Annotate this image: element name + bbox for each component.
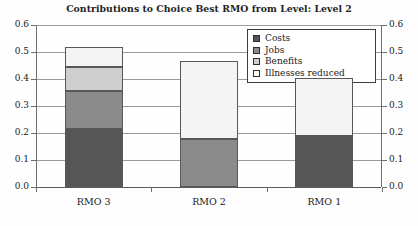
bar-segment-illnesses-reduced[interactable] <box>295 78 353 136</box>
y-axis-tick-left <box>31 106 36 107</box>
x-axis-tick <box>36 187 37 192</box>
bar-segment-jobs[interactable] <box>180 139 238 187</box>
legend-swatch-icon <box>253 70 260 77</box>
y-axis-label-left: 0.6 <box>3 20 29 29</box>
x-axis-label: RMO 1 <box>284 196 364 207</box>
y-axis-tick-right <box>382 25 387 26</box>
gridline <box>37 187 381 188</box>
y-axis-tick-left <box>31 133 36 134</box>
y-axis-tick-left <box>31 25 36 26</box>
bar-segment-benefits[interactable] <box>65 67 123 91</box>
legend-label: Costs <box>265 34 290 43</box>
y-axis-label-right: 0.4 <box>389 74 415 83</box>
x-axis-tick <box>151 187 152 192</box>
bar-segment-costs[interactable] <box>295 136 353 187</box>
y-axis-label-right: 0.6 <box>389 20 415 29</box>
y-axis-tick-right <box>382 52 387 53</box>
y-axis-tick-right <box>382 133 387 134</box>
y-axis-label-left: 0.5 <box>3 47 29 56</box>
bar-rmo-1[interactable] <box>295 25 353 187</box>
bar-segment-costs[interactable] <box>65 129 123 187</box>
x-axis-label: RMO 3 <box>54 196 134 207</box>
legend-label: Jobs <box>265 46 284 55</box>
y-axis-label-left: 0.4 <box>3 74 29 83</box>
y-axis-label-left: 0.1 <box>3 155 29 164</box>
y-axis-tick-right <box>382 79 387 80</box>
legend-swatch-icon <box>253 58 260 65</box>
y-axis-label-right: 0.2 <box>389 128 415 137</box>
x-axis-label: RMO 2 <box>169 196 249 207</box>
bar-segment-illnesses-reduced[interactable] <box>65 47 123 66</box>
bar-segment-jobs[interactable] <box>65 91 123 129</box>
legend-swatch-icon <box>253 47 260 54</box>
x-axis-tick <box>267 187 268 192</box>
y-axis-label-right: 0.1 <box>389 155 415 164</box>
bar-rmo-2[interactable] <box>180 25 238 187</box>
y-axis-tick-right <box>382 106 387 107</box>
y-axis-tick-left <box>31 52 36 53</box>
y-axis-label-left: 0.2 <box>3 128 29 137</box>
y-axis-label-right: 0.0 <box>389 182 415 191</box>
y-axis-label-right: 0.3 <box>389 101 415 110</box>
chart-title: Contributions to Choice Best RMO from Le… <box>0 3 418 14</box>
y-axis-label-right: 0.5 <box>389 47 415 56</box>
legend-swatch-icon <box>253 35 260 42</box>
y-axis-label-left: 0.0 <box>3 182 29 191</box>
y-axis-label-left: 0.3 <box>3 101 29 110</box>
y-axis-tick-left <box>31 79 36 80</box>
x-axis-tick <box>382 187 383 192</box>
stacked-bar-chart: Contributions to Choice Best RMO from Le… <box>0 0 418 226</box>
y-axis-tick-right <box>382 160 387 161</box>
bar-segment-illnesses-reduced[interactable] <box>180 61 238 139</box>
bar-rmo-3[interactable] <box>65 25 123 187</box>
y-axis-tick-left <box>31 160 36 161</box>
